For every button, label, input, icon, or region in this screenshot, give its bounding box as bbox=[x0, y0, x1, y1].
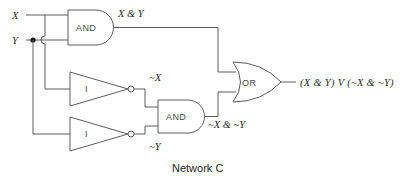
network-c-circuit: AND X & Y I ~X I ~Y AND ~X & ~Y OR (X & … bbox=[0, 0, 403, 180]
gate-and-bottom-label: AND bbox=[166, 112, 186, 122]
label-x-and-y: X & Y bbox=[117, 8, 145, 19]
wire-and-top-output bbox=[114, 28, 237, 73]
logic-diagram-canvas: AND X & Y I ~X I ~Y AND ~X & ~Y OR (X & … bbox=[0, 0, 403, 180]
wire-x-to-inverter bbox=[45, 44, 70, 89]
label-final-expression: (X & Y) V (~X & ~Y) bbox=[300, 77, 394, 89]
wire-y-to-inverter bbox=[33, 40, 70, 134]
gate-inverter-y-body bbox=[70, 117, 128, 151]
gate-inverter-y-label: I bbox=[85, 129, 88, 139]
gate-inverter-x-body bbox=[70, 72, 128, 106]
gate-inverter-x-label: I bbox=[85, 84, 88, 94]
inverter-y-bubble bbox=[128, 131, 134, 137]
label-not-y: ~Y bbox=[149, 141, 162, 152]
label-not-x: ~X bbox=[149, 72, 162, 83]
gate-or-label: OR bbox=[242, 78, 256, 88]
inverter-x-bubble bbox=[128, 86, 134, 92]
diagram-caption: Network C bbox=[172, 162, 223, 174]
wire-not-x-output bbox=[134, 89, 158, 107]
gate-or-body bbox=[233, 62, 281, 102]
input-label-x: X bbox=[11, 10, 19, 21]
label-not-x-and-not-y: ~X & ~Y bbox=[208, 119, 246, 130]
wire-not-y-output bbox=[134, 126, 158, 134]
gate-and-top-label: AND bbox=[76, 23, 96, 33]
wire-and-bottom-output bbox=[205, 92, 237, 117]
input-label-y: Y bbox=[12, 35, 19, 46]
